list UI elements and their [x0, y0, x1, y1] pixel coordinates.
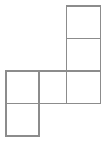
square-middle-right — [67, 71, 101, 104]
square-top-right — [67, 6, 101, 39]
square-upper-right — [67, 39, 101, 72]
polyomino-diagram — [0, 0, 107, 141]
polyomino-figure — [0, 0, 107, 141]
square-middle-center — [39, 71, 67, 104]
square-bottom-left — [6, 104, 39, 137]
square-middle-left — [6, 71, 39, 104]
